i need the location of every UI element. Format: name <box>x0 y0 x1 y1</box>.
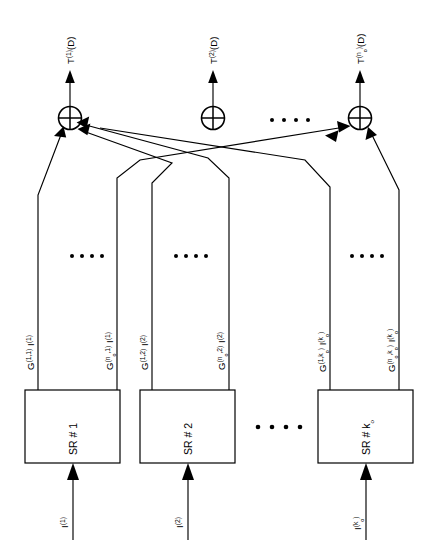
input-arrowhead-ko <box>360 463 372 480</box>
ellipsis-taps-1 <box>70 254 104 258</box>
block-diagram: T(1)(D) T(2)(D) T(no)(D) <box>0 0 436 555</box>
output-branch-2: T(2)(D) <box>208 37 220 106</box>
output-label-no: T(no)(D) <box>355 34 369 64</box>
adder-no <box>349 107 372 130</box>
input-label-ko: I(ko) <box>352 516 366 530</box>
input-arrowhead-2 <box>182 463 194 480</box>
figure-canvas: T(1)(D) T(2)(D) T(no)(D) <box>0 0 436 555</box>
output-label-1: T(1)(D) <box>65 37 77 64</box>
output-branch-1: T(1)(D) <box>65 37 77 106</box>
output-label-2: T(2)(D) <box>208 37 220 64</box>
output-branch-no: T(no)(D) <box>355 34 369 106</box>
input-branch-2: I(2) <box>174 463 195 540</box>
tap-wire-1-1 <box>38 127 66 391</box>
tap-arrowhead-no-ko <box>366 127 378 140</box>
ellipsis-taps-2 <box>174 254 208 258</box>
output-arrowhead-1 <box>65 70 75 83</box>
tap-label-no-2: G(no,2) I(2) <box>216 332 230 370</box>
output-arrowhead-2 <box>208 70 218 83</box>
input-arrowhead-1 <box>67 463 79 480</box>
input-branch-1: I(1) <box>59 463 80 540</box>
tap-arrowhead-1-ko <box>325 130 339 142</box>
tap-label-1-1: G(1,1) I(1) <box>25 335 37 370</box>
tap-label-no-1: G(no,1) I(1) <box>104 332 118 370</box>
tap-label-1-ko: G(1,ko) I(ko) <box>317 332 331 372</box>
adder-2 <box>202 107 225 130</box>
input-label-1: I(1) <box>59 517 71 528</box>
output-arrowhead-no <box>355 70 365 83</box>
shift-register-label-1: SR # 1 <box>67 423 79 455</box>
adder-1 <box>59 107 82 130</box>
input-label-2: I(2) <box>174 517 186 528</box>
ellipsis-adders <box>270 118 310 122</box>
tap-label-no-ko: G(no,ko) I(ko) <box>386 329 400 372</box>
tap-arrowhead-no-1 <box>337 121 351 133</box>
ellipsis-registers <box>256 425 303 430</box>
shift-register-label-2: SR # 2 <box>182 423 194 455</box>
input-branch-ko: I(ko) <box>352 463 373 540</box>
ellipsis-taps-ko <box>350 254 384 258</box>
tap-label-1-2: G(1,2) I(2) <box>139 335 151 370</box>
